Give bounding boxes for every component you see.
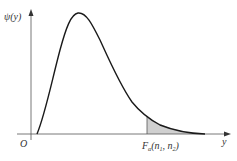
crit-open: (n [151,140,159,151]
crit-close: ) [176,140,179,151]
x-axis-label: y [222,137,226,147]
origin-label: O [20,139,27,149]
f-distribution-chart [0,0,237,161]
y-axis-label: ψ(y) [4,12,21,22]
density-curve [37,13,205,134]
crit-sep: , n [163,140,173,151]
shaded-tail-area [147,117,205,134]
y-axis-arrow-icon [29,9,34,16]
critical-value-label: Fα(n1, n2) [142,141,179,152]
